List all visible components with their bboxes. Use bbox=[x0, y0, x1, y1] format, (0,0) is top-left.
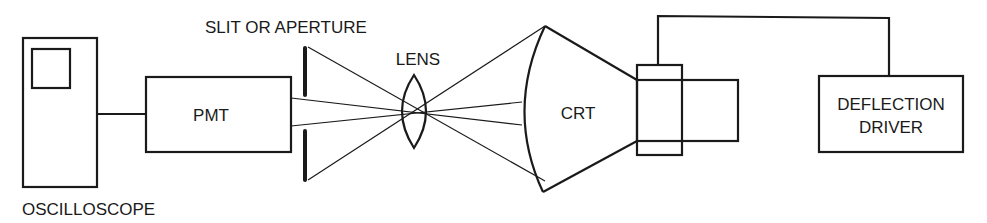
deflection-driver-box bbox=[819, 76, 963, 152]
yoke-driver-wire bbox=[658, 16, 889, 76]
oscilloscope-label: OSCILLOSCOPE bbox=[22, 200, 155, 219]
slit-label: SLIT OR APERTURE bbox=[205, 18, 367, 37]
optical-setup-diagram: OSCILLOSCOPE PMT SLIT OR APERTURE LENS C… bbox=[0, 0, 987, 223]
crt-face bbox=[524, 26, 545, 192]
pmt: PMT bbox=[146, 77, 291, 152]
slit-aperture: SLIT OR APERTURE bbox=[205, 18, 367, 180]
deflection-driver-label-line1: DEFLECTION bbox=[837, 95, 945, 114]
deflection-driver: DEFLECTION DRIVER bbox=[819, 76, 963, 152]
crt-neck bbox=[637, 80, 738, 141]
lens-label: LENS bbox=[396, 50, 440, 69]
crt: CRT bbox=[524, 26, 738, 192]
crt-funnel-bottom bbox=[543, 141, 637, 192]
crt-funnel-top bbox=[545, 26, 637, 80]
deflection-driver-label-line2: DRIVER bbox=[859, 118, 923, 137]
ray-inner-bottom bbox=[291, 102, 522, 126]
oscilloscope-body bbox=[23, 38, 97, 187]
pmt-label: PMT bbox=[193, 106, 229, 125]
oscilloscope-screen bbox=[32, 49, 70, 88]
oscilloscope: OSCILLOSCOPE bbox=[22, 38, 155, 219]
crt-label: CRT bbox=[561, 104, 596, 123]
